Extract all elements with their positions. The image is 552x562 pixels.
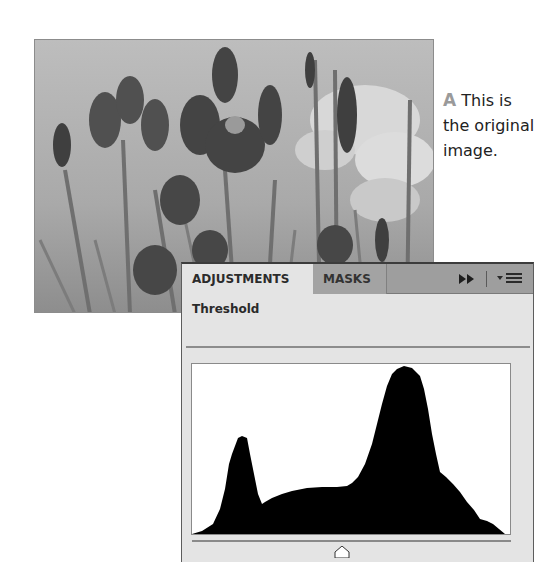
tab-masks[interactable]: MASKS <box>313 264 387 294</box>
caption-line-3: image. <box>443 141 498 160</box>
caption-line-2: the original <box>443 116 534 135</box>
caption-letter: A <box>443 90 456 110</box>
adjustments-panel: MASKS ADJUSTMENTS Threshold <box>181 262 534 562</box>
toolbar-divider <box>486 271 487 287</box>
threshold-slider-thumb-icon[interactable] <box>334 546 350 558</box>
caption-line-1: This is <box>461 91 512 110</box>
double-arrow-right-icon[interactable] <box>459 274 475 284</box>
threshold-slider-track[interactable] <box>192 540 511 542</box>
tab-adjustments[interactable]: ADJUSTMENTS <box>182 264 313 295</box>
panel-menu-icon[interactable] <box>497 273 523 285</box>
panel-controls <box>453 264 533 294</box>
histogram-graph <box>192 364 510 534</box>
title-divider <box>186 346 530 348</box>
figure-caption: A This is the original image. <box>443 88 552 163</box>
panel-title: Threshold <box>192 302 259 316</box>
panel-tab-bar: MASKS ADJUSTMENTS <box>182 264 533 294</box>
threshold-histogram <box>191 363 511 535</box>
